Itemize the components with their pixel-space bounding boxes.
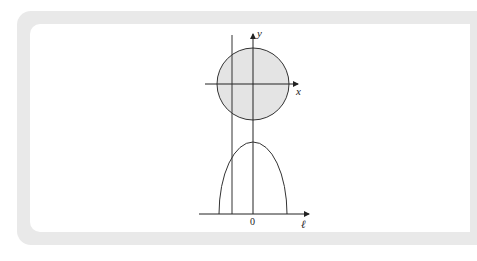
y-axis-label: y — [256, 27, 262, 39]
l-axis-label: ℓ — [301, 218, 306, 230]
x-axis-label: x — [295, 85, 301, 97]
origin-label: 0 — [250, 216, 255, 227]
